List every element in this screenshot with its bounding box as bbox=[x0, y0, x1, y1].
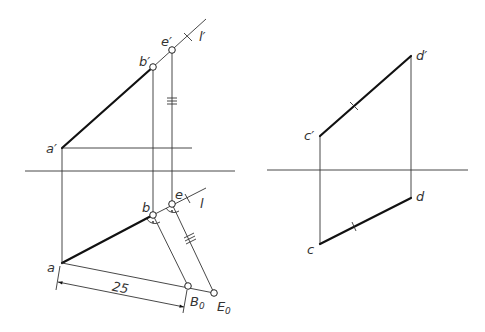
label-b: b bbox=[142, 200, 150, 215]
label-e-prime: e′ bbox=[161, 34, 172, 49]
dimension-value: 25 bbox=[111, 279, 130, 297]
label-B0: B 0 bbox=[190, 294, 205, 311]
segment-a-prime-b-prime bbox=[62, 67, 153, 148]
label-b-prime: b′ bbox=[139, 54, 150, 69]
label-E0: E 0 bbox=[217, 299, 231, 316]
tick-mark-l-prime bbox=[184, 33, 192, 41]
segment-c-prime-d-prime bbox=[320, 56, 411, 136]
point-b-prime bbox=[150, 64, 157, 71]
triple-tick-top bbox=[184, 233, 196, 244]
line-b-B0 bbox=[153, 215, 188, 286]
point-E0 bbox=[211, 290, 218, 297]
projection-diagram: 25 a′ b′ e′ l′ a b e l B 0 E 0 bbox=[0, 0, 485, 332]
extension-line-B0 bbox=[183, 290, 187, 313]
left-view: 25 a′ b′ e′ l′ a b e l B 0 E 0 bbox=[25, 19, 235, 316]
right-view: c′ d′ c d bbox=[267, 48, 468, 257]
svg-text:0: 0 bbox=[199, 301, 205, 311]
svg-text:0: 0 bbox=[225, 306, 231, 316]
line-e-E0 bbox=[172, 204, 214, 293]
label-d: d bbox=[416, 189, 425, 204]
label-e: e bbox=[175, 187, 183, 202]
label-c: c bbox=[307, 242, 314, 257]
segment-a-b bbox=[62, 215, 153, 263]
point-b bbox=[150, 212, 157, 219]
label-a-prime: a′ bbox=[46, 141, 57, 156]
extension-line-a bbox=[56, 266, 60, 290]
label-c-prime: c′ bbox=[304, 128, 314, 143]
svg-text:B: B bbox=[190, 294, 199, 309]
segment-c-d bbox=[320, 198, 411, 244]
label-l: l bbox=[200, 196, 204, 211]
line-a-E0 bbox=[62, 263, 214, 293]
point-B0 bbox=[185, 283, 192, 290]
label-l-prime: l′ bbox=[199, 29, 206, 44]
label-a: a bbox=[47, 260, 55, 275]
label-d-prime: d′ bbox=[416, 48, 427, 63]
